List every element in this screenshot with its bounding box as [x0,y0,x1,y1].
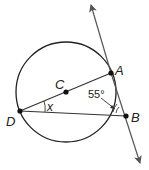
segment-DB [20,111,126,116]
label-angle-x: x [46,100,54,114]
label-A: A [114,63,124,78]
label-C: C [55,77,65,92]
tangent-line [91,5,111,73]
point-D [17,108,22,113]
geometry-diagram: A B C D x 55° [0,0,149,170]
angle-b-arc-1 [116,107,119,113]
label-B: B [131,110,140,125]
point-B [123,113,128,118]
label-D: D [6,114,15,129]
angle-x-arc [44,101,45,112]
point-A [108,70,113,75]
label-angle-55: 55° [88,88,105,100]
